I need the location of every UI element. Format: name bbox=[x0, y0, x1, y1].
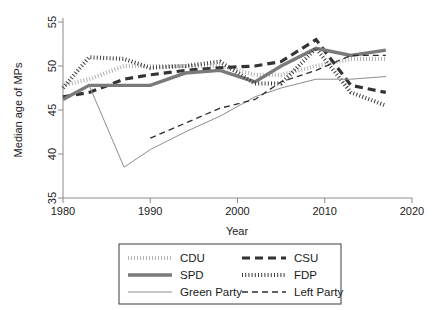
y-tick-label: 40 bbox=[46, 148, 58, 160]
chart-legend: CDUSPDGreen PartyCSUFDPLeft Party bbox=[119, 244, 343, 304]
x-tick-label: 2020 bbox=[400, 205, 424, 217]
x-tick-label: 2000 bbox=[225, 205, 249, 217]
x-tick-label: 1980 bbox=[51, 205, 75, 217]
legend-label-csu: CSU bbox=[294, 252, 318, 264]
series-line-green-party bbox=[89, 77, 386, 168]
chart-figure: 3540455055 Median age of MPs 19801990200… bbox=[0, 0, 440, 310]
legend-label-cdu: CDU bbox=[180, 252, 205, 264]
y-tick-label: 55 bbox=[46, 16, 58, 28]
plot-series-group bbox=[63, 40, 386, 168]
median-age-line-chart: 3540455055 Median age of MPs 19801990200… bbox=[0, 0, 440, 310]
x-axis-title: Year bbox=[226, 225, 249, 237]
x-tick-label: 1990 bbox=[138, 205, 162, 217]
y-tick-label: 50 bbox=[46, 60, 58, 72]
series-line-csu bbox=[63, 40, 386, 97]
legend-label-spd: SPD bbox=[180, 269, 204, 281]
legend-label-left-party: Left Party bbox=[294, 286, 343, 298]
y-tick-label: 35 bbox=[46, 192, 58, 204]
y-tick-label: 45 bbox=[46, 104, 58, 116]
legend-label-green-party: Green Party bbox=[180, 286, 242, 298]
y-axis: 3540455055 Median age of MPs bbox=[12, 16, 63, 204]
x-axis: 19801990200020102020 Year bbox=[51, 198, 424, 237]
x-axis-ticks: 19801990200020102020 bbox=[51, 198, 424, 217]
x-tick-label: 2010 bbox=[313, 205, 337, 217]
series-line-fdp bbox=[63, 48, 386, 105]
legend-label-fdp: FDP bbox=[294, 269, 317, 281]
y-axis-title: Median age of MPs bbox=[12, 62, 24, 157]
y-axis-ticks: 3540455055 bbox=[46, 16, 63, 204]
